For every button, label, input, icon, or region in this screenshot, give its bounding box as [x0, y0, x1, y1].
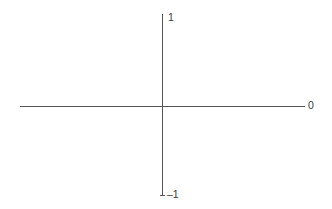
vertical-axis-max-label: 1	[168, 12, 174, 23]
vertical-axis-min-label: –1	[167, 189, 179, 200]
vertical-axis-min-tick	[160, 195, 165, 196]
vertical-axis-line	[162, 14, 163, 196]
axis-diagram-figure: 1 –1 0	[0, 0, 332, 209]
horizontal-axis-end-label: 0	[308, 100, 314, 111]
